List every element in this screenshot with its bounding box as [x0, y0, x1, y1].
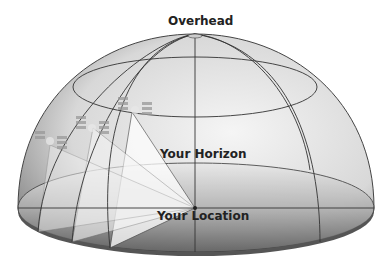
zenith-marker: [188, 34, 202, 38]
sky-dome-diagram: [0, 0, 390, 268]
horizon-label: Your Horizon: [160, 147, 247, 161]
location-label: Your Location: [157, 209, 249, 223]
overhead-label: Overhead: [168, 14, 233, 28]
